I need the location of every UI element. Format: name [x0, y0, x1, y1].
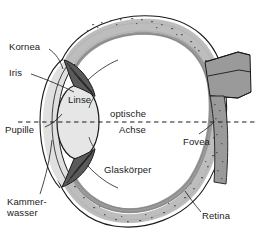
label-pupille: Pupille — [5, 124, 34, 135]
label-fovea: Fovea — [183, 136, 210, 147]
label-optische-achse-line1: optische — [110, 108, 146, 119]
label-iris: Iris — [9, 67, 22, 78]
label-retina: Retina — [202, 210, 230, 221]
label-kammerwasser: Kammer- wasser — [7, 196, 47, 218]
label-optische-achse-line2: Achse — [119, 124, 146, 135]
label-linse: Linse — [68, 94, 91, 105]
label-kornea: Kornea — [9, 41, 40, 52]
label-glaskoerper: Glaskörper — [104, 164, 151, 175]
eye-anatomy-diagram: Kornea Iris Pupille Kammer- wasser Linse… — [0, 0, 263, 244]
